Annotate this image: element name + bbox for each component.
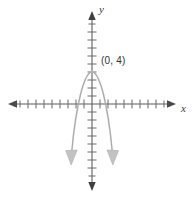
y-axis-bottom-arrowhead (88, 182, 95, 191)
y-axis-top-arrowhead (88, 11, 95, 20)
x-axis-left-arrowhead (8, 100, 17, 108)
y-axis-group (88, 11, 97, 191)
parabola-graph-figure: y x (0, 4) (0, 0, 194, 197)
vertex-coordinate-label: (0, 4) (101, 56, 126, 66)
parabola-left-arrowhead (66, 150, 78, 165)
parabola-right-arrowhead (107, 150, 119, 165)
parabola-vertex-point (90, 70, 93, 73)
y-axis-label: y (99, 4, 104, 15)
graph-canvas (0, 0, 194, 197)
x-axis-right-arrowhead (167, 100, 176, 108)
x-axis-label: x (181, 103, 186, 114)
